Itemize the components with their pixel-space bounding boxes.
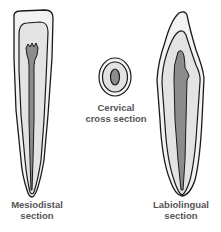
mesiodistal-tooth-drawing — [14, 10, 53, 197]
cervical-label-line1: Cervical — [82, 102, 150, 113]
mesiodistal-label-line1: Mesiodistal — [0, 199, 74, 210]
cervical-cross-section-label: Cervical cross section — [82, 102, 150, 124]
labiolingual-label-line1: Labiolingual — [143, 199, 219, 210]
cervical-label-line2: cross section — [82, 113, 150, 124]
labiolingual-section-label: Labiolingual section — [143, 199, 219, 221]
cervical-pulp — [111, 69, 120, 85]
mesiodistal-label-line2: section — [0, 210, 74, 221]
labiolingual-label-line2: section — [143, 210, 219, 221]
labiolingual-tooth-drawing — [157, 12, 204, 196]
cervical-cross-section-drawing — [99, 58, 131, 96]
mesiodistal-section-label: Mesiodistal section — [0, 199, 74, 221]
